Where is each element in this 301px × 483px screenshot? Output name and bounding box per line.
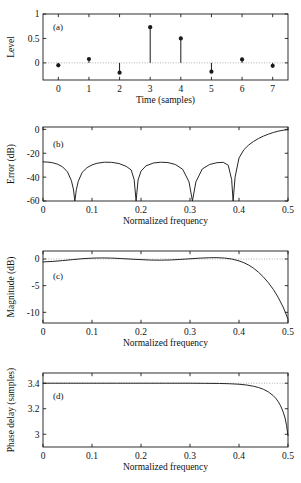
panel-label-c: (c)	[53, 271, 63, 281]
yaxis-title-d: Phase delay (samples)	[6, 368, 17, 452]
xticklabel-d-3: 0.3	[184, 451, 196, 461]
yticklabel-b-3: -60	[27, 196, 40, 206]
stem-marker	[240, 57, 244, 61]
subplot-a-impulse-response: 0123456700.51Time (samples)Level(a)	[0, 0, 301, 115]
panel-label-b: (b)	[53, 139, 64, 149]
xticklabel-a-7: 7	[270, 84, 275, 94]
xticklabel-d-0: 0	[41, 451, 46, 461]
xticklabel-b-4: 0.4	[233, 205, 245, 215]
figure-stem-and-frequency-response: 0123456700.51Time (samples)Level(a) 00.1…	[0, 0, 301, 483]
xticklabel-b-0: 0	[41, 205, 46, 215]
xticklabel-a-3: 3	[148, 84, 153, 94]
plot-c: 00.10.20.30.40.50-5-10Normalized frequen…	[0, 237, 301, 359]
xticklabel-a-4: 4	[178, 84, 183, 94]
xticklabel-d-2: 0.2	[135, 451, 147, 461]
xaxis-title-d: Normalized frequency	[123, 462, 208, 472]
stem-marker	[209, 70, 213, 74]
stem-marker	[117, 71, 121, 75]
data-curve-b	[43, 130, 288, 201]
stem-marker	[271, 64, 275, 68]
yticklabel-b-1: -20	[27, 149, 40, 159]
subplot-c-magnitude: 00.10.20.30.40.50-5-10Normalized frequen…	[0, 237, 301, 359]
xticklabel-b-2: 0.2	[135, 205, 147, 215]
plot-frame-c	[43, 251, 288, 323]
yticklabel-d-0: 3	[35, 430, 40, 440]
yaxis-title-a: Level	[6, 36, 16, 58]
yticklabel-d-1: 3.2	[28, 404, 40, 414]
subplot-b-error: 00.10.20.30.40.50-20-40-60Normalized fre…	[0, 115, 301, 237]
panel-label-a: (a)	[53, 22, 63, 32]
xticklabel-c-0: 0	[41, 327, 46, 337]
xticklabel-a-2: 2	[117, 84, 122, 94]
yaxis-title-b: Error (dB)	[6, 144, 17, 184]
xaxis-title-c: Normalized frequency	[123, 338, 208, 348]
xticklabel-c-5: 0.5	[282, 327, 294, 337]
yticklabel-c-1: -5	[32, 281, 40, 291]
plot-d: 00.10.20.30.40.533.23.4Normalized freque…	[0, 359, 301, 483]
yticklabel-c-2: -10	[27, 308, 40, 318]
xticklabel-a-0: 0	[56, 84, 61, 94]
stem-marker	[56, 63, 60, 67]
stem-marker	[87, 57, 91, 61]
xticklabel-c-1: 0.1	[86, 327, 98, 337]
panel-label-d: (d)	[53, 391, 64, 401]
xticklabel-d-4: 0.4	[233, 451, 245, 461]
stem-marker	[148, 25, 152, 29]
subplot-d-phase-delay: 00.10.20.30.40.533.23.4Normalized freque…	[0, 359, 301, 483]
xticklabel-c-4: 0.4	[233, 327, 245, 337]
data-curve-c	[43, 258, 288, 320]
yticklabel-a-0: 0	[35, 58, 40, 68]
yticklabel-b-2: -40	[27, 173, 40, 183]
yaxis-title-c: Magnitude (dB)	[6, 257, 17, 318]
xticklabel-d-5: 0.5	[282, 451, 294, 461]
xticklabel-b-3: 0.3	[184, 205, 196, 215]
yticklabel-b-0: 0	[35, 125, 40, 135]
plot-frame-d	[43, 373, 288, 447]
xticklabel-c-2: 0.2	[135, 327, 147, 337]
plot-frame-a	[43, 14, 288, 80]
yticklabel-a-2: 1	[35, 9, 40, 19]
xticklabel-a-6: 6	[240, 84, 245, 94]
plot-a: 0123456700.51Time (samples)Level(a)	[0, 0, 301, 115]
plot-frame-b	[43, 127, 288, 201]
plot-b: 00.10.20.30.40.50-20-40-60Normalized fre…	[0, 115, 301, 237]
yticklabel-a-1: 0.5	[28, 34, 40, 44]
stem-series-a	[56, 25, 275, 75]
xticklabel-a-1: 1	[87, 84, 92, 94]
xticklabel-a-5: 5	[209, 84, 214, 94]
xticklabel-d-1: 0.1	[86, 451, 98, 461]
xaxis-title-a: Time (samples)	[136, 95, 195, 106]
xaxis-title-b: Normalized frequency	[123, 216, 208, 226]
xticklabel-b-1: 0.1	[86, 205, 98, 215]
data-curve-d	[43, 383, 288, 435]
yticklabel-c-0: 0	[35, 254, 40, 264]
xticklabel-c-3: 0.3	[184, 327, 196, 337]
stem-marker	[179, 36, 183, 40]
yticklabel-d-2: 3.4	[28, 379, 40, 389]
xticklabel-b-5: 0.5	[282, 205, 294, 215]
